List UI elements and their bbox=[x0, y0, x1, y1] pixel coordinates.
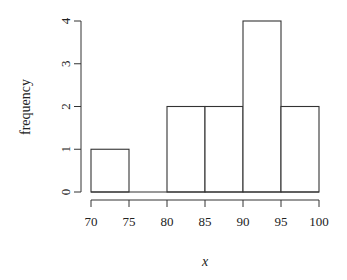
y-tick-label: 4 bbox=[58, 17, 73, 24]
histogram-bars bbox=[91, 21, 319, 192]
histogram-bar bbox=[205, 107, 243, 193]
x-axis: 707580859095100 bbox=[85, 200, 329, 229]
y-tick-label: 3 bbox=[58, 61, 73, 68]
x-axis-label: x bbox=[201, 254, 209, 269]
x-tick-label: 75 bbox=[123, 214, 136, 229]
y-axis: 01234 bbox=[58, 17, 81, 195]
histogram-bar bbox=[167, 107, 205, 193]
x-tick-label: 70 bbox=[85, 214, 98, 229]
x-tick-label: 80 bbox=[161, 214, 174, 229]
histogram-chart: 01234 707580859095100 frequency x bbox=[0, 0, 347, 280]
histogram-bar bbox=[243, 21, 281, 192]
y-tick-label: 0 bbox=[58, 189, 73, 196]
y-tick-label: 2 bbox=[58, 103, 73, 110]
y-axis-label: frequency bbox=[18, 79, 33, 135]
y-tick-label: 1 bbox=[58, 146, 73, 153]
x-tick-label: 100 bbox=[309, 214, 329, 229]
x-tick-label: 85 bbox=[199, 214, 212, 229]
histogram-bar bbox=[91, 149, 129, 192]
x-tick-label: 95 bbox=[275, 214, 288, 229]
x-tick-label: 90 bbox=[237, 214, 250, 229]
histogram-bar bbox=[281, 107, 319, 193]
